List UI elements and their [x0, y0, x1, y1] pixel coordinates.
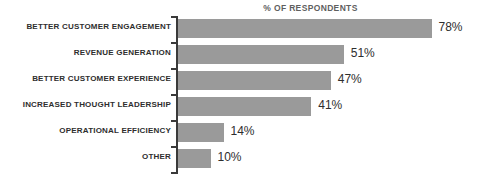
chart-title: % OF RESPONDENTS — [178, 3, 443, 13]
bar-row: OTHER 10% — [0, 146, 481, 172]
category-label: BETTER CUSTOMER EXPERIENCE — [32, 74, 171, 84]
bar — [178, 149, 211, 168]
bar-row: INCREASED THOUGHT LEADERSHIP 41% — [0, 94, 481, 120]
bar-row: BETTER CUSTOMER EXPERIENCE 47% — [0, 68, 481, 94]
bar-value-label: 78% — [439, 20, 463, 34]
bar-row: BETTER CUSTOMER ENGAGEMENT 78% — [0, 16, 481, 42]
bar-value-label: 10% — [218, 150, 242, 164]
axis-tick-bottom — [171, 172, 178, 174]
bar-value-label: 47% — [338, 72, 362, 86]
category-label: REVENUE GENERATION — [74, 48, 171, 58]
category-label: OTHER — [142, 152, 171, 162]
category-label: INCREASED THOUGHT LEADERSHIP — [23, 100, 171, 110]
bar — [178, 97, 311, 116]
bar-row: OPERATIONAL EFFICIENCY 14% — [0, 120, 481, 146]
bar-value-label: 41% — [318, 98, 342, 112]
bar-value-label: 14% — [231, 124, 255, 138]
category-label: BETTER CUSTOMER ENGAGEMENT — [26, 22, 171, 32]
bar — [178, 71, 331, 90]
bar-value-label: 51% — [351, 46, 375, 60]
bar — [178, 19, 432, 38]
plot-area: BETTER CUSTOMER ENGAGEMENT 78% REVENUE G… — [0, 16, 481, 176]
bar-row: REVENUE GENERATION 51% — [0, 42, 481, 68]
bar — [178, 123, 224, 142]
bar — [178, 45, 344, 64]
horizontal-bar-chart: % OF RESPONDENTS BETTER CUSTOMER ENGAGEM… — [0, 0, 481, 185]
category-label: OPERATIONAL EFFICIENCY — [59, 126, 171, 136]
